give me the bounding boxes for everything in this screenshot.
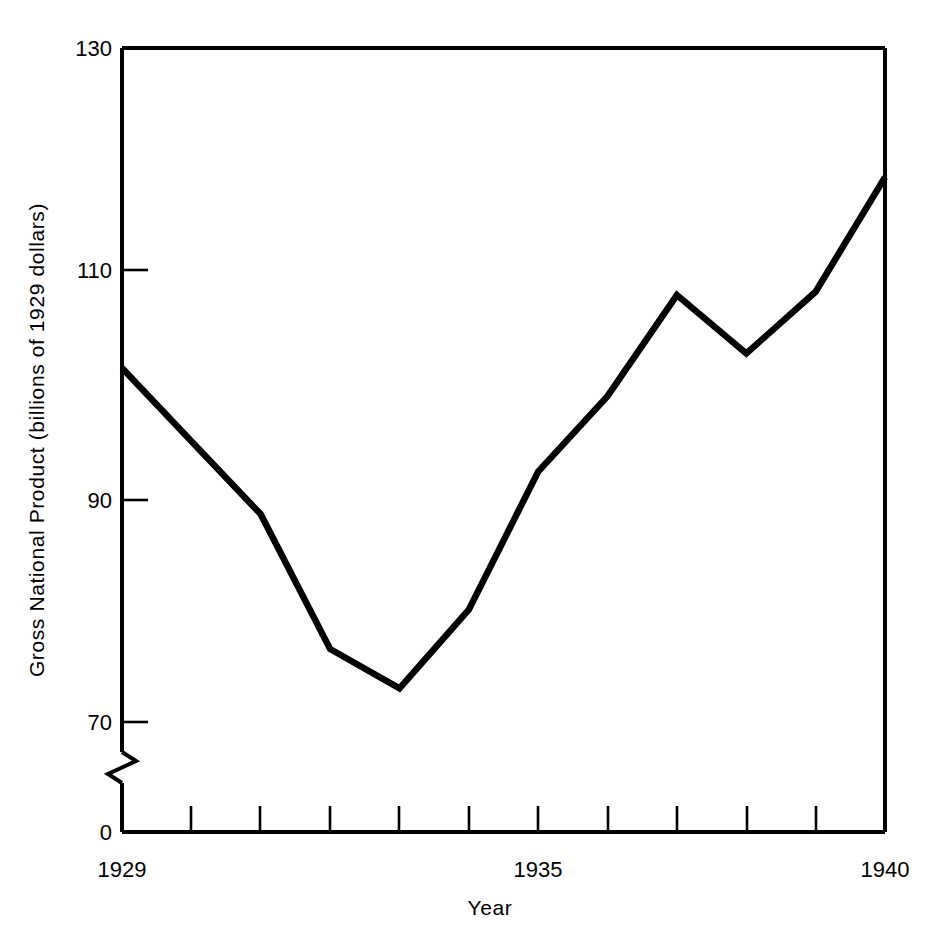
x-tick-label-1929: 1929 [98,857,147,882]
y-tick-label-0: 0 [100,820,112,845]
y-axis-break-icon [108,752,136,783]
x-axis-title: Year [468,896,513,919]
x-axis-ticks [191,806,816,832]
y-tick-label-130: 130 [75,36,112,61]
plot-frame [108,48,885,832]
y-tick-label-70: 70 [88,710,112,735]
gnp-data-line [122,177,885,688]
y-tick-label-90: 90 [88,488,112,513]
x-tick-label-1935: 1935 [514,857,563,882]
gnp-line-chart-figure: 130 110 90 70 0 1929 1935 1940 Year [0,0,934,926]
chart-canvas: 130 110 90 70 0 1929 1935 1940 Year [0,0,934,926]
y-axis-title: Gross National Product (billions of 1929… [25,203,48,677]
y-axis-tick-labels: 130 110 90 70 0 [75,36,112,845]
y-axis-ticks [122,270,148,722]
x-tick-label-1940: 1940 [861,857,910,882]
y-tick-label-110: 110 [77,258,112,283]
x-axis-tick-labels: 1929 1935 1940 [98,857,910,882]
